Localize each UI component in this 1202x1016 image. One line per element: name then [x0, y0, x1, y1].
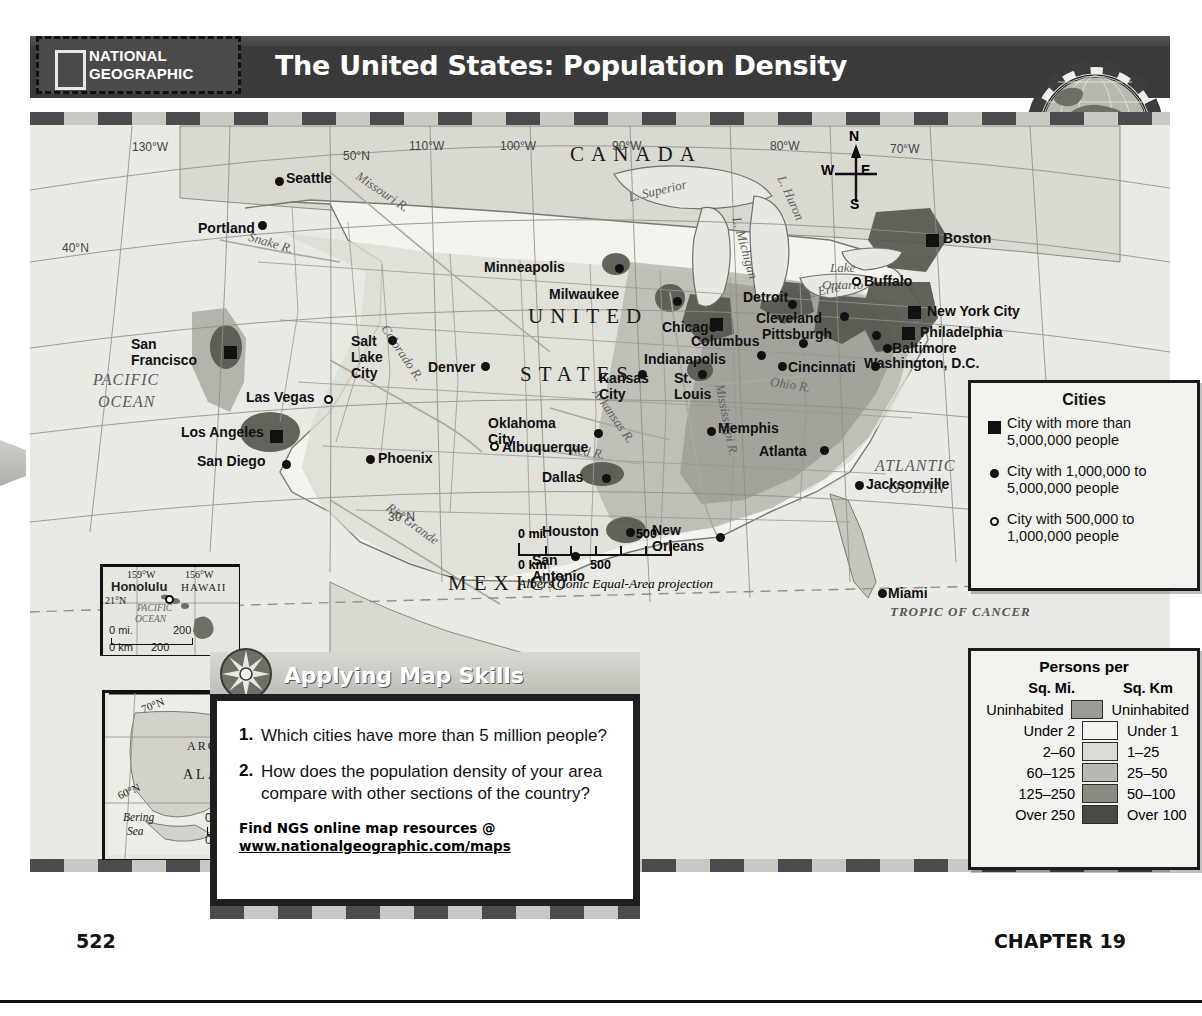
city-label-washington-d-c-: Washington, D.C.	[864, 355, 979, 371]
alaska-bering-1: Bering	[123, 811, 154, 823]
city-marker-jacksonville[interactable]	[855, 481, 864, 490]
publisher-name: NATIONAL GEOGRAPHIC	[89, 47, 194, 83]
ngs-url-link[interactable]: www.nationalgeographic.com/maps	[239, 837, 611, 855]
city-label-kansas-city: KansasCity	[599, 370, 649, 402]
cities-legend-title: Cities	[971, 391, 1197, 409]
city-label-atlanta: Atlanta	[759, 443, 806, 459]
city-marker-indianapolis[interactable]	[757, 351, 766, 360]
city-marker-salt-lake-city[interactable]	[388, 336, 397, 345]
ocean-label-1: OCEAN	[98, 393, 155, 411]
compass-east: E	[861, 162, 870, 178]
compass-south: S	[850, 196, 859, 212]
city-marker-denver[interactable]	[481, 362, 490, 371]
page-bottom-rule	[0, 1000, 1202, 1003]
density-mi-5: Over 250	[979, 807, 1082, 823]
city-label-new-york-city: New York City	[927, 303, 1020, 319]
graticule-label-5: 80°W	[770, 139, 799, 153]
hawaii-scale-km-max: 200	[151, 641, 169, 653]
graticule-label-9: TROPIC OF CANCER	[890, 604, 1031, 620]
city-marker-seattle[interactable]	[275, 177, 284, 186]
projection-note: Albers Conic Equal-Area projection	[518, 576, 718, 592]
national-geographic-logo-box: NATIONAL GEOGRAPHIC	[36, 36, 241, 94]
city-marker-minneapolis[interactable]	[615, 264, 624, 273]
applying-map-skills-footer-strip	[210, 906, 640, 919]
city-marker-san-francisco[interactable]	[224, 346, 237, 359]
city-label-phoenix: Phoenix	[378, 450, 432, 466]
density-swatch-0	[1071, 700, 1103, 719]
city-label-oklahoma-city: OklahomaCity	[488, 415, 556, 447]
alaska-bering-2: Sea	[127, 825, 144, 837]
city-marker-detroit[interactable]	[788, 300, 797, 309]
map-scale-bar: 0 mi. 500 0 km 500 Albers Conic Equal-Ar…	[518, 527, 718, 592]
hawaii-inset: 159°W 156°W 21°N Honolulu HAWAII PACIFIC…	[100, 564, 240, 656]
density-km-0: Uninhabited	[1103, 702, 1189, 718]
city-label-detroit: Detroit	[743, 289, 788, 305]
density-swatch-1	[1082, 721, 1118, 740]
density-legend-rows: UninhabitedUninhabitedUnder 2Under 12–60…	[971, 699, 1197, 825]
hawaii-lat: 21°N	[105, 595, 126, 606]
city-label-dallas: Dallas	[542, 469, 583, 485]
cities-legend: Cities City with more than5,000,000 peop…	[968, 380, 1200, 591]
city-label-indianapolis: Indianapolis	[644, 351, 726, 367]
density-km-5: Over 100	[1118, 807, 1189, 823]
map-border-top	[30, 112, 1170, 125]
city-marker-new-york-city[interactable]	[908, 306, 921, 319]
city-marker-oklahoma-city[interactable]	[594, 429, 603, 438]
city-label-seattle: Seattle	[286, 170, 332, 186]
city-marker-las-vegas[interactable]	[324, 395, 333, 404]
page-number: 522	[76, 930, 116, 952]
cities-legend-text-2: City with 500,000 to1,000,000 people	[1007, 511, 1134, 545]
city-marker-atlanta[interactable]	[820, 446, 829, 455]
city-marker-milwaukee[interactable]	[673, 297, 682, 306]
cities-legend-item-2: City with 500,000 to1,000,000 people	[971, 511, 1197, 545]
skills-question-text-2: How does the population density of your …	[261, 761, 611, 805]
cities-legend-text-1: City with 1,000,000 to5,000,000 people	[1007, 463, 1146, 497]
city-label-philadelphia: Philadelphia	[920, 324, 1002, 340]
density-legend-row-1: Under 2Under 1	[971, 720, 1197, 741]
city-label-san-francisco: SanFrancisco	[131, 336, 197, 368]
applying-map-skills-body: 1.Which cities have more than 5 million …	[210, 694, 640, 906]
city-marker-cleveland[interactable]	[840, 312, 849, 321]
graticule-label-1: 50°N	[343, 149, 370, 163]
city-marker-miami[interactable]	[878, 589, 887, 598]
city-marker-los-angeles[interactable]	[270, 430, 283, 443]
city-marker-san-diego[interactable]	[282, 460, 291, 469]
city-label-st-louis: St.Louis	[674, 370, 711, 402]
city-marker-memphis[interactable]	[707, 427, 716, 436]
city-marker-buffalo[interactable]	[852, 277, 861, 286]
hawaii-ocean-2: OCEAN	[135, 614, 166, 624]
city-marker-baltimore[interactable]	[883, 344, 892, 353]
density-swatch-2	[1082, 742, 1118, 761]
city-label-portland: Portland	[198, 220, 255, 236]
ngs-line: Find NGS online map resources @	[239, 820, 496, 836]
graticule-label-8: 30°N	[388, 510, 415, 524]
city-marker-pittsburgh[interactable]	[872, 331, 881, 340]
country-label-united: UNITED	[528, 304, 648, 329]
city-marker-phoenix[interactable]	[366, 455, 375, 464]
city-label-columbus: Columbus	[691, 333, 759, 349]
compass-north: N	[849, 128, 859, 144]
graticule-label-3: 100°W	[500, 139, 536, 153]
scale-miles-zero: 0 mi.	[518, 527, 547, 541]
textbook-map-page: The United States: Population Density NA…	[0, 0, 1202, 1016]
skills-question-1: 1.Which cities have more than 5 million …	[239, 725, 611, 747]
density-legend-title: Persons per	[971, 651, 1197, 676]
city-marker-cincinnati[interactable]	[778, 362, 787, 371]
scale-km-row: 0 km 500	[518, 558, 718, 574]
city-marker-boston[interactable]	[926, 234, 939, 247]
page-title: The United States: Population Density	[275, 50, 847, 81]
city-marker-philadelphia[interactable]	[902, 327, 915, 340]
city-label-buffalo: Buffalo	[864, 273, 912, 289]
city-label-cleveland: Cleveland	[756, 310, 822, 326]
city-label-san-diego: San Diego	[197, 453, 265, 469]
city-marker-portland[interactable]	[258, 221, 267, 230]
city-label-miami: Miami	[888, 585, 928, 601]
graticule-label-2: 110°W	[409, 139, 444, 153]
city-marker-dallas[interactable]	[602, 474, 611, 483]
open-circle-marker-icon	[981, 511, 1007, 526]
density-legend-row-5: Over 250Over 100	[971, 804, 1197, 825]
hawaii-label: HAWAII	[181, 581, 226, 593]
density-mi-3: 60–125	[979, 765, 1082, 781]
density-col-sq-km: Sq. Km	[1121, 680, 1189, 696]
square-marker-icon	[981, 415, 1007, 434]
